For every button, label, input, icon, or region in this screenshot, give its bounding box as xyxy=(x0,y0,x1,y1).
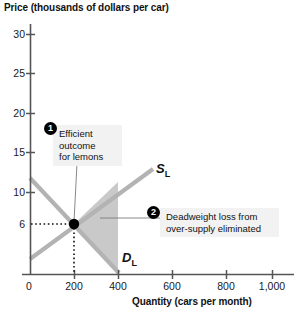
callout-2-badge: 2 xyxy=(147,206,160,219)
supply-curve-label: SL xyxy=(156,161,170,179)
demand-curve-label-subscript: L xyxy=(131,258,137,268)
callout-deadweight-loss: Deadweight loss from over-supply elimina… xyxy=(160,208,279,237)
callout-efficient-outcome: Efficient outcome for lemons xyxy=(53,125,122,166)
plot-canvas xyxy=(0,0,299,324)
supply-curve-label-subscript: L xyxy=(165,169,171,179)
supply-curve-label-letter: S xyxy=(156,161,165,176)
callout-1-leader-line xyxy=(74,163,77,222)
equilibrium-point-marker xyxy=(69,219,79,229)
deadweight-loss-triangle xyxy=(74,182,118,273)
demand-curve-label: DL xyxy=(122,250,137,268)
economics-chart-figure: Price (thousands of dollars per car) Qua… xyxy=(0,0,299,324)
demand-curve-label-letter: D xyxy=(122,250,131,265)
callout-1-badge: 1 xyxy=(44,122,57,135)
